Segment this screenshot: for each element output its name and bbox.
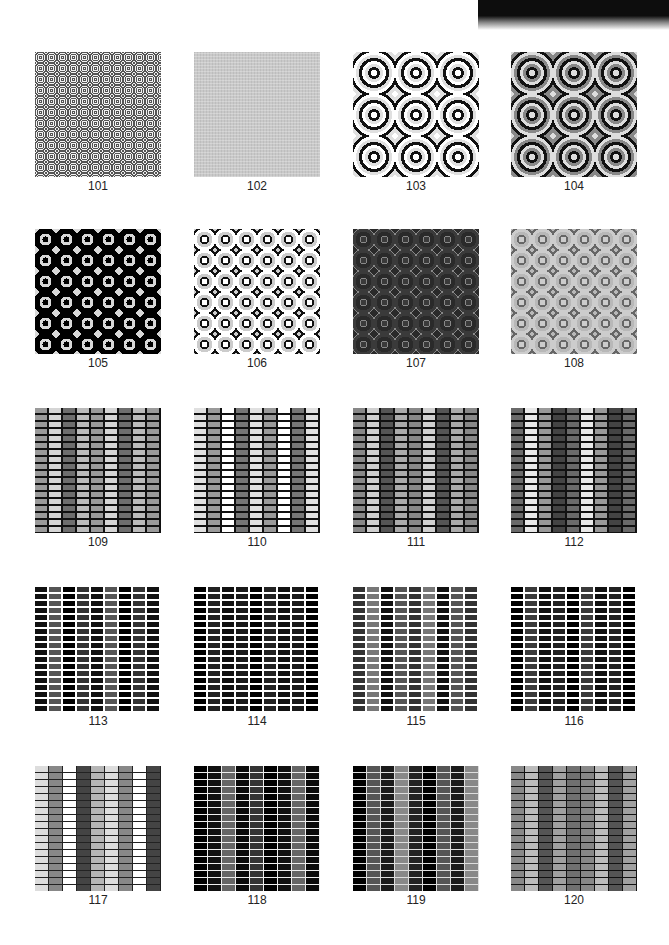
- pattern-cell: 115: [353, 587, 479, 728]
- pattern-swatch: [511, 766, 637, 891]
- pattern-label: 101: [35, 179, 161, 193]
- pattern-swatch: [511, 229, 637, 354]
- pattern-swatch: [353, 229, 479, 354]
- pattern-cell: 119: [353, 766, 479, 907]
- pattern-label: 102: [194, 179, 320, 193]
- pattern-cell: 107: [353, 229, 479, 370]
- pattern-swatch: [194, 766, 320, 891]
- pattern-swatch: [35, 52, 161, 177]
- pattern-swatch: [353, 408, 479, 533]
- pattern-label: 104: [511, 179, 637, 193]
- pattern-cell: 103: [353, 52, 479, 193]
- pattern-swatch: [353, 766, 479, 891]
- pattern-swatch: [194, 52, 320, 177]
- pattern-cell: 114: [194, 587, 320, 728]
- pattern-cell: 109: [35, 408, 161, 549]
- pattern-label: 111: [353, 535, 479, 549]
- pattern-label: 119: [353, 893, 479, 907]
- header-strip-dark-band: [478, 0, 669, 16]
- pattern-cell: 101: [35, 52, 161, 193]
- pattern-label: 116: [511, 714, 637, 728]
- pattern-cell: 111: [353, 408, 479, 549]
- pattern-label: 107: [353, 356, 479, 370]
- pattern-cell: 110: [194, 408, 320, 549]
- pattern-label: 105: [35, 356, 161, 370]
- pattern-label: 110: [194, 535, 320, 549]
- header-decorative-strip: [478, 0, 669, 30]
- pattern-label: 117: [35, 893, 161, 907]
- pattern-cell: 106: [194, 229, 320, 370]
- pattern-swatch: [511, 587, 637, 712]
- pattern-cell: 102: [194, 52, 320, 193]
- pattern-swatch: [35, 766, 161, 891]
- pattern-label: 103: [353, 179, 479, 193]
- pattern-cell: 112: [511, 408, 637, 549]
- pattern-cell: 104: [511, 52, 637, 193]
- pattern-swatch: [194, 587, 320, 712]
- pattern-swatch: [511, 52, 637, 177]
- pattern-swatch: [35, 587, 161, 712]
- pattern-label: 112: [511, 535, 637, 549]
- pattern-label: 120: [511, 893, 637, 907]
- pattern-swatch: [35, 229, 161, 354]
- pattern-swatch: [194, 229, 320, 354]
- pattern-cell: 105: [35, 229, 161, 370]
- pattern-cell: 120: [511, 766, 637, 907]
- pattern-swatch: [511, 408, 637, 533]
- pattern-swatch: [353, 52, 479, 177]
- pattern-label: 113: [35, 714, 161, 728]
- pattern-swatch: [35, 408, 161, 533]
- pattern-cell: 113: [35, 587, 161, 728]
- pattern-swatch: [353, 587, 479, 712]
- pattern-cell: 117: [35, 766, 161, 907]
- pattern-label: 106: [194, 356, 320, 370]
- pattern-label: 114: [194, 714, 320, 728]
- pattern-cell: 108: [511, 229, 637, 370]
- pattern-label: 108: [511, 356, 637, 370]
- pattern-cell: 118: [194, 766, 320, 907]
- pattern-cell: 116: [511, 587, 637, 728]
- pattern-label: 115: [353, 714, 479, 728]
- pattern-label: 118: [194, 893, 320, 907]
- pattern-swatch: [194, 408, 320, 533]
- pattern-label: 109: [35, 535, 161, 549]
